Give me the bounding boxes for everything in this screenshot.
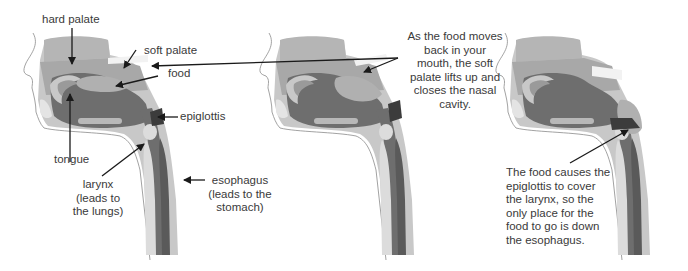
larynx-arrow	[102, 144, 144, 176]
label-tongue: tongue	[54, 153, 89, 167]
soft-palate-callout: As the food moves back in your mouth, th…	[393, 30, 517, 111]
panel-2-illustration	[260, 33, 414, 260]
label-esophagus: esophagus (leads to the stomach)	[200, 174, 280, 215]
epiglottis-callout: The food causes the epiglottis to cover …	[506, 166, 610, 247]
label-epiglottis: epiglottis	[180, 110, 225, 124]
label-soft-palate: soft palate	[144, 44, 197, 58]
label-larynx: larynx (leads to the lungs)	[68, 178, 128, 219]
panel-1-illustration	[24, 33, 178, 260]
swallowing-diagram: hard palate soft palate food epiglottis …	[0, 0, 688, 271]
label-hard-palate: hard palate	[42, 13, 100, 27]
label-food: food	[168, 67, 190, 81]
